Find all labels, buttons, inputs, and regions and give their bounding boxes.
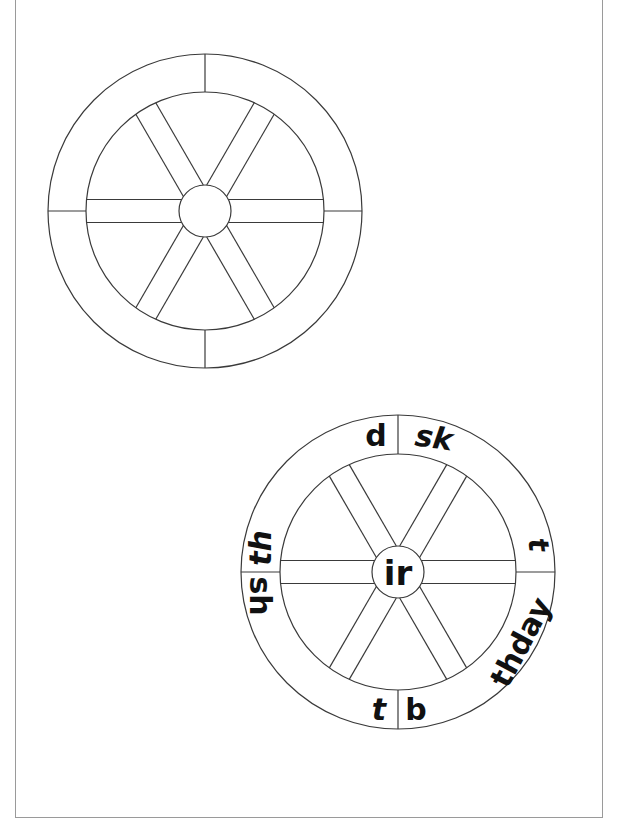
spokes [87,103,324,320]
rim-label-thday: thday [483,591,559,693]
rim-label-sh: sh [243,576,278,615]
rim-label-t-right: t [521,536,556,555]
worksheet-canvas: ir d sk t thday b t sh th [0,0,636,837]
rim-label-sk: sk [413,418,457,458]
blank-wheel-inner-rim [86,92,324,330]
blank-wheel-outer-rim [48,54,362,368]
rim-label-d: d [365,418,386,453]
rim-label-th: th [243,530,278,566]
hub-label: ir [384,553,413,593]
blank-wheel [48,54,362,368]
example-wheel: ir d sk t thday b t sh th [241,415,559,729]
rim-label-t-bottom: t [372,692,388,727]
rim-label-b: b [405,692,426,727]
blank-wheel-hub [179,185,231,237]
